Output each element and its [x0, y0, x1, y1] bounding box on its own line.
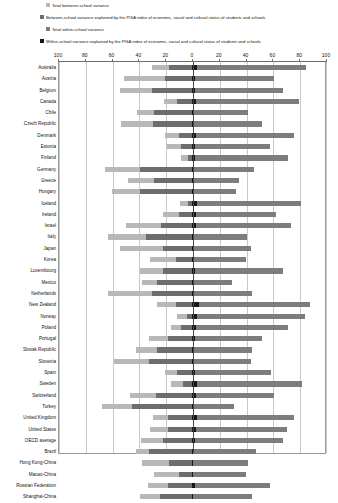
- bar-total-between-school: [142, 280, 157, 285]
- category-label: Chile: [0, 107, 56, 118]
- category-label: Ireland: [0, 209, 56, 220]
- bar-total-within-school: [196, 133, 294, 138]
- chart-row: Ireland: [0, 209, 338, 220]
- axis-tick-label: 0: [191, 52, 194, 58]
- row-bars: [58, 367, 326, 378]
- bar-total-between-school: [124, 76, 166, 81]
- row-bars: [58, 254, 326, 265]
- row-bars: [58, 299, 326, 310]
- bar-total-between-school: [142, 460, 169, 465]
- bar-total-between-school: [126, 223, 161, 228]
- row-bars: [58, 469, 326, 480]
- category-label: New Zealand: [0, 299, 56, 310]
- row-bars: [58, 164, 326, 175]
- bar-between-school-explained: [161, 223, 192, 228]
- bar-total-between-school: [108, 291, 152, 296]
- bar-total-within-school: [193, 178, 239, 183]
- category-label: Korea: [0, 254, 56, 265]
- bar-between-school-explained: [140, 189, 192, 194]
- chart-row: Hungary: [0, 186, 338, 197]
- category-label: Portugal: [0, 333, 56, 344]
- row-bars: [58, 401, 326, 412]
- chart-row: Mexico: [0, 277, 338, 288]
- bar-within-school-explained: [192, 460, 193, 465]
- chart-row: Korea: [0, 254, 338, 265]
- chart-row: Poland: [0, 322, 338, 333]
- legend-swatch-icon: [40, 15, 44, 19]
- category-label: United Kingdom: [0, 412, 56, 423]
- category-label: Hungary: [0, 186, 56, 197]
- row-bars: [58, 480, 326, 491]
- category-label: Netherlands: [0, 288, 56, 299]
- bar-total-between-school: [150, 257, 175, 262]
- bar-total-between-school: [128, 178, 155, 183]
- bar-between-school-explained: [149, 449, 192, 454]
- row-bars: [58, 62, 326, 73]
- category-label: Austria: [0, 73, 56, 84]
- bar-total-within-school: [193, 257, 245, 262]
- chart-rows: AustraliaAustriaBelgiumCanadaChileCzech …: [0, 62, 338, 503]
- bar-between-school-explained: [154, 178, 192, 183]
- row-bars: [58, 141, 326, 152]
- row-bars: [58, 356, 326, 367]
- bar-total-within-school: [193, 110, 248, 115]
- row-bars: [58, 186, 326, 197]
- row-bars: [58, 265, 326, 276]
- bar-total-within-school: [197, 314, 304, 319]
- bar-total-within-school: [197, 201, 300, 206]
- bar-between-school-explained: [140, 167, 192, 172]
- legend-swatch-icon: [46, 3, 50, 7]
- bar-between-school-explained: [177, 370, 192, 375]
- category-label: Slovak Republic: [0, 344, 56, 355]
- bar-between-school-explained: [176, 302, 192, 307]
- bar-total-between-school: [120, 88, 152, 93]
- category-label: Mexico: [0, 277, 56, 288]
- category-label: Canada: [0, 96, 56, 107]
- bar-total-within-school: [195, 144, 270, 149]
- axis-tick-label: 40: [136, 52, 142, 58]
- row-bars: [58, 220, 326, 231]
- category-label: Luxembourg: [0, 265, 56, 276]
- bar-between-school-explained: [132, 404, 192, 409]
- chart-row: Iceland: [0, 198, 338, 209]
- bar-total-within-school: [193, 472, 245, 477]
- bar-between-school-explained: [154, 110, 192, 115]
- row-bars: [58, 198, 326, 209]
- chart-row: Spain: [0, 367, 338, 378]
- bar-total-between-school: [152, 65, 169, 70]
- bar-total-within-school: [197, 65, 306, 70]
- chart-row: United States: [0, 424, 338, 435]
- category-label: Germany: [0, 164, 56, 175]
- category-label: OECD average: [0, 435, 56, 446]
- bar-total-within-school: [195, 438, 283, 443]
- chart-row: Sweden: [0, 378, 338, 389]
- row-bars: [58, 209, 326, 220]
- bar-between-school-explained: [146, 234, 192, 239]
- legend-label: Total within-school variance: [52, 24, 104, 36]
- bar-total-between-school: [140, 494, 160, 499]
- axis-tick-label: 80: [82, 52, 88, 58]
- bar-total-between-school: [165, 133, 178, 138]
- bar-within-school-explained: [192, 472, 193, 477]
- chart-row: Brazil: [0, 446, 338, 457]
- chart-row: Greece: [0, 175, 338, 186]
- bar-total-within-school: [193, 280, 232, 285]
- zero-line: [193, 62, 194, 453]
- category-label: Slovenia: [0, 356, 56, 367]
- category-label: Iceland: [0, 198, 56, 209]
- category-label: Sweden: [0, 378, 56, 389]
- row-bars: [58, 446, 326, 457]
- row-bars: [58, 130, 326, 141]
- bar-total-within-school: [196, 427, 287, 432]
- bar-total-within-school: [196, 393, 274, 398]
- bar-between-school-explained: [160, 494, 192, 499]
- chart-row: Finland: [0, 152, 338, 163]
- bar-between-school-explained: [169, 65, 192, 70]
- bar-total-between-school: [140, 268, 163, 273]
- axis-tick-label: 80: [296, 52, 302, 58]
- bar-between-school-explained: [149, 359, 192, 364]
- legend-label: Between-school variance explained by the…: [46, 12, 265, 24]
- bar-total-within-school: [195, 483, 270, 488]
- legend-item-total-within: Total within-school variance: [0, 24, 338, 36]
- bar-between-school-explained: [168, 427, 192, 432]
